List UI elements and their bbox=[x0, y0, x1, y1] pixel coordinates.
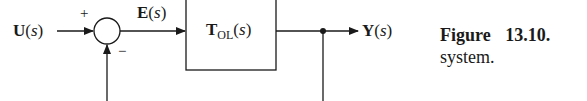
error-arg: s bbox=[154, 3, 161, 22]
block-name: T bbox=[206, 20, 217, 39]
block-subscript: OL bbox=[217, 28, 233, 42]
plus-sign: + bbox=[80, 6, 88, 21]
output-label: Y(s) bbox=[362, 22, 392, 39]
minus-sign: − bbox=[118, 44, 126, 59]
caption-line2: system. bbox=[440, 46, 550, 68]
output-arg: s bbox=[380, 21, 387, 40]
output-name: Y bbox=[362, 21, 374, 40]
error-name: E bbox=[137, 3, 148, 22]
input-label: U(s) bbox=[13, 22, 43, 39]
block-arg: s bbox=[239, 20, 246, 39]
input-name: U bbox=[13, 21, 25, 40]
figure-caption: Figure 13.10. system. bbox=[440, 24, 550, 68]
caption-label: Figure 13.10. bbox=[440, 24, 550, 46]
block-label: TOL(s) bbox=[206, 21, 251, 38]
summing-junction bbox=[94, 18, 120, 44]
error-label: E(s) bbox=[137, 4, 166, 21]
input-arg: s bbox=[31, 21, 38, 40]
